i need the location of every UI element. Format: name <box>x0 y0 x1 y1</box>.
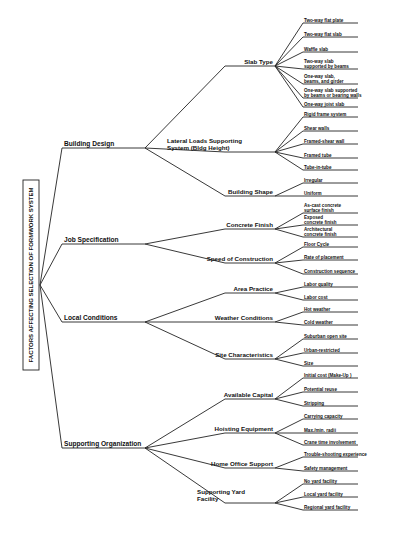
leaf-item-label: Rigid frame system <box>304 112 346 117</box>
leaf-item: Two-way slabsupported by beams <box>304 59 349 69</box>
leaf-item: No yard facility <box>304 479 337 484</box>
category-label: Building Design <box>64 140 114 148</box>
leaf-item: Trouble-shooting experience <box>304 452 367 457</box>
leaf-item-label: Two-way flat slab <box>304 32 342 37</box>
subfactor-label: Slab Type <box>244 58 273 65</box>
leaf-item-label: concrete finish <box>304 220 337 225</box>
leaf-item: Construction sequence <box>304 269 355 274</box>
root-title: FACTORS AFFECTING SELECTION OF FORMWORK … <box>28 187 34 362</box>
leaf-item: Local yard facility <box>304 492 343 497</box>
leaf-item: Waffle slab <box>304 47 328 52</box>
leaf-item: Initial cost (Make-Up ) <box>304 373 352 378</box>
subfactor: Hoisting Equipment <box>215 425 273 432</box>
leaf-item: Architecturalconcrete finish <box>304 227 337 237</box>
leaf-item-label: Initial cost (Make-Up ) <box>304 373 352 378</box>
leaf-item: Framed-shear wall <box>304 139 344 144</box>
leaf-item: Regional yard facility <box>304 505 351 510</box>
leaf-item: Labor quality <box>304 282 333 287</box>
subfactor: Home Office Support <box>211 460 273 467</box>
leaf-item-label: surface finish <box>304 208 334 213</box>
leaf-item: Urban-restricted <box>304 348 340 353</box>
leaf-item-label: No yard facility <box>304 479 337 484</box>
leaf-item-label: Size <box>304 361 314 366</box>
subfactor-branch <box>145 433 275 448</box>
leaf-item: Stripping <box>304 401 324 406</box>
leaf-item-label: Hot weather <box>304 307 331 312</box>
leaf-item-label: Cold weather <box>304 320 333 325</box>
subfactor: Available Capital <box>224 391 274 398</box>
subfactor: Building Shape <box>228 188 274 195</box>
leaf-item-label: Tube-in-tube <box>304 165 332 170</box>
subfactor-label: Building Shape <box>228 188 274 195</box>
item-branch <box>275 144 358 152</box>
leaf-item-label: Irregular <box>304 178 323 183</box>
leaf-item: Rigid frame system <box>304 112 346 117</box>
leaf-item: Labor cost <box>304 295 328 300</box>
leaf-item-label: Suburban open site <box>304 334 347 339</box>
leaf-item: Carrying capacity <box>304 414 343 419</box>
leaf-item-label: Uniform <box>304 191 322 196</box>
leaf-item-label: beams, and girder <box>304 79 344 84</box>
leaf-item: Framed tube <box>304 153 332 158</box>
leaf-item-label: supported by beams <box>304 64 349 69</box>
leaf-item: Shear walls <box>304 126 330 131</box>
subfactor-label: Site Characteristics <box>215 351 273 358</box>
leaf-item: Cold weather <box>304 320 333 325</box>
leaf-item-label: Max./min. radii <box>304 428 336 433</box>
subfactor-label: Facility <box>197 495 219 502</box>
subfactor: Site Characteristics <box>215 351 273 358</box>
leaf-item: Floor Cycle <box>304 242 329 247</box>
subfactor: Concrete Finish <box>226 221 273 228</box>
leaf-item: Two-way flat plate <box>304 18 344 23</box>
leaf-item: Max./min. radii <box>304 428 336 433</box>
subfactor-label: Available Capital <box>224 391 274 398</box>
leaf-item-label: Urban-restricted <box>304 348 340 353</box>
item-branch <box>275 497 358 503</box>
leaf-item: As-cast concretesurface finish <box>304 203 341 213</box>
leaf-item: Tube-in-tube <box>304 165 332 170</box>
subfactor-label: System (Bldg Height) <box>167 144 230 151</box>
subfactor-label: Area Practice <box>233 285 273 292</box>
item-branch <box>275 117 358 152</box>
leaf-item-label: Safety management <box>304 466 348 471</box>
item-branch <box>275 359 358 366</box>
formwork-factor-tree: FACTORS AFFECTING SELECTION OF FORMWORK … <box>0 0 403 533</box>
category-branch <box>40 244 145 285</box>
leaf-item: Rate of placement <box>304 255 344 260</box>
subfactor-label: Speed of Construction <box>207 255 274 262</box>
subfactor: Weather Conditions <box>215 314 274 321</box>
subfactor: Lateral Loads SupportingSystem (Bldg Hei… <box>167 137 242 150</box>
category-label: Supporting Organization <box>64 440 141 448</box>
leaf-item: Suburban open site <box>304 334 347 339</box>
subfactor: Slab Type <box>244 58 273 65</box>
subfactor-label: Home Office Support <box>211 460 273 467</box>
leaf-item: Hot weather <box>304 307 331 312</box>
subfactor: Supporting YardFacility <box>197 488 245 501</box>
leaf-item: Size <box>304 361 314 366</box>
leaf-item: One-way slab,beams, and girder <box>304 74 344 84</box>
subfactor: Speed of Construction <box>207 255 274 262</box>
leaf-item-label: by beams or bearing walls <box>304 93 362 98</box>
leaf-item-label: Waffle slab <box>304 47 328 52</box>
category-branch <box>40 148 145 285</box>
category-branch <box>40 285 145 448</box>
leaf-item-label: Floor Cycle <box>304 242 329 247</box>
subfactor-branch <box>145 229 275 244</box>
leaf-item-label: One-way joist slab <box>304 102 345 107</box>
leaf-item-label: Labor quality <box>304 282 333 287</box>
item-branch <box>275 392 358 399</box>
leaf-item: Exposedconcrete finish <box>304 215 337 225</box>
item-branch <box>275 353 358 359</box>
leaf-item-label: Two-way flat plate <box>304 18 344 23</box>
leaf-item-label: Shear walls <box>304 126 330 131</box>
leaf-item-label: Construction sequence <box>304 269 355 274</box>
subfactor-label: Weather Conditions <box>215 314 274 321</box>
leaf-item-label: Regional yard facility <box>304 505 351 510</box>
item-branch <box>275 287 358 293</box>
category-label: Job Specification <box>64 236 119 244</box>
leaf-item: Uniform <box>304 191 322 196</box>
leaf-item: Two-way flat slab <box>304 32 342 37</box>
leaf-item-label: Stripping <box>304 401 324 406</box>
leaf-item-label: Carrying capacity <box>304 414 343 419</box>
subfactor-label: Hoisting Equipment <box>215 425 273 432</box>
